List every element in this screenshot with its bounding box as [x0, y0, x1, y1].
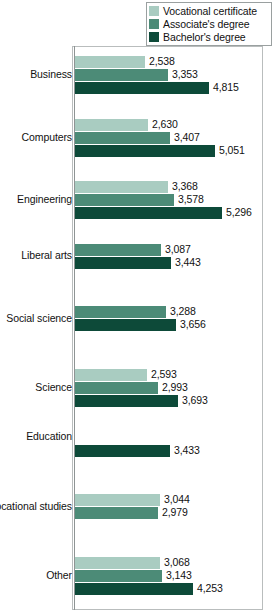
bar-value-label: 3,068: [164, 556, 190, 569]
chart-legend: Vocational certificateAssociate's degree…: [146, 2, 272, 46]
bar-value-label: 2,593: [151, 368, 177, 381]
category-label: Other: [0, 570, 72, 582]
bar-groups: Business2,5383,3534,815Computers2,6303,4…: [0, 46, 275, 610]
bar-value-label: 4,815: [213, 81, 239, 94]
bar-value-label: 3,044: [164, 493, 190, 506]
bar-value-label: 4,253: [197, 582, 223, 595]
category-label: Social science: [0, 313, 72, 325]
category-label: Education: [0, 431, 72, 443]
bar: [75, 207, 222, 219]
legend-item: Associate's degree: [149, 18, 268, 30]
bar: [75, 395, 178, 407]
bar: [75, 244, 161, 256]
bar-value-label: 3,288: [170, 305, 196, 318]
bar-value-label: 3,407: [174, 131, 200, 144]
bar-value-label: 2,993: [162, 381, 188, 394]
bar: [75, 494, 160, 506]
bar: [75, 82, 209, 94]
bar-value-label: 3,368: [172, 180, 198, 193]
bar: [75, 583, 193, 595]
bar-value-label: 3,656: [180, 318, 206, 331]
bar-value-label: 3,433: [174, 444, 200, 457]
bar-value-label: 2,630: [152, 118, 178, 131]
bar-value-label: 3,143: [166, 569, 192, 582]
bar: [75, 181, 168, 193]
legend-item-label: Vocational certificate: [163, 6, 257, 17]
bar: [75, 445, 170, 457]
bar-value-label: 3,087: [165, 243, 191, 256]
category-label: Engineering: [0, 194, 72, 206]
bar-value-label: 3,353: [172, 68, 198, 81]
bar-value-label: 5,296: [226, 206, 252, 219]
legend-swatch-icon: [149, 6, 159, 16]
bar: [75, 570, 162, 582]
category-label: Vocational studies: [0, 501, 72, 513]
category-label: Liberal arts: [0, 250, 72, 262]
bar: [75, 369, 147, 381]
bar: [75, 257, 171, 269]
bar-value-label: 3,578: [178, 193, 204, 206]
bar: [75, 119, 148, 131]
bar-value-label: 3,693: [182, 394, 208, 407]
legend-item: Vocational certificate: [149, 5, 268, 17]
category-label: Business: [0, 69, 72, 81]
legend-item: Bachelor's degree: [149, 31, 268, 43]
bar-value-label: 2,538: [149, 55, 175, 68]
legend-item-label: Associate's degree: [163, 19, 250, 30]
legend-swatch-icon: [149, 32, 159, 42]
category-label: Science: [0, 382, 72, 394]
bar: [75, 194, 174, 206]
bar-value-label: 3,443: [175, 256, 201, 269]
legend-item-label: Bachelor's degree: [163, 32, 246, 43]
bar: [75, 132, 170, 144]
bar: [75, 306, 166, 318]
bar: [75, 507, 158, 519]
bar-value-label: 5,051: [219, 144, 245, 157]
bar-value-label: 2,979: [162, 506, 188, 519]
bar: [75, 145, 215, 157]
bar: [75, 56, 145, 68]
legend-swatch-icon: [149, 19, 159, 29]
bar: [75, 382, 158, 394]
bar: [75, 557, 160, 569]
bar: [75, 319, 176, 331]
category-label: Computers: [0, 132, 72, 144]
bar: [75, 69, 168, 81]
